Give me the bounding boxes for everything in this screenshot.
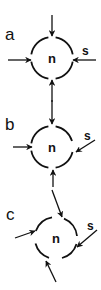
s-label-c: s bbox=[87, 219, 94, 233]
arrow-top-icon-c bbox=[52, 190, 62, 217]
s-label-a: s bbox=[82, 44, 89, 58]
panel-label-b: b bbox=[5, 115, 14, 134]
node-label-c: n bbox=[52, 231, 60, 246]
panel-c: c n s bbox=[6, 190, 97, 282]
node-label-a: n bbox=[48, 51, 56, 66]
panel-label-a: a bbox=[5, 25, 15, 44]
panel-a: a n s bbox=[5, 15, 96, 79]
arrow-left-icon-c bbox=[15, 231, 35, 238]
panel-label-c: c bbox=[6, 205, 15, 224]
s-label-b: s bbox=[84, 129, 91, 143]
panel-b: b n s bbox=[5, 115, 95, 187]
arrow-bottom-icon-c bbox=[46, 261, 56, 282]
diagram: a n s b n s c bbox=[0, 0, 101, 290]
node-label-b: n bbox=[48, 140, 56, 155]
